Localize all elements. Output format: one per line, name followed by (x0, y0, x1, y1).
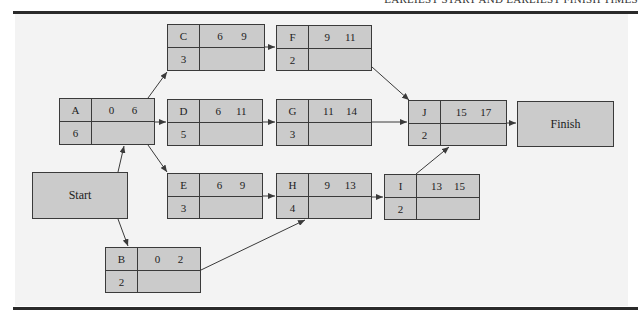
activity-name: E (168, 174, 200, 197)
activity-name: C (168, 25, 200, 48)
bottom-rule (13, 307, 638, 310)
edge-a-e (148, 145, 167, 172)
earliest-start: 9 (324, 179, 330, 191)
activity-name: I (385, 175, 417, 198)
finish-label: Finish (550, 117, 580, 132)
earliest-start: 9 (324, 31, 330, 43)
activity-duration: 2 (409, 124, 441, 145)
activity-node-h: H 4 913 (276, 173, 372, 219)
activity-duration: 3 (168, 197, 200, 218)
activity-times: 1517 (441, 101, 506, 124)
activity-times: 06 (92, 99, 154, 122)
activity-node-c: C 3 69 (167, 24, 265, 71)
activity-blank-cell (92, 122, 154, 144)
earliest-start: 13 (431, 180, 442, 192)
activity-name: A (60, 99, 92, 122)
earliest-finish: 9 (240, 179, 246, 191)
earliest-start: 6 (217, 179, 223, 191)
activity-name: J (409, 101, 441, 124)
start-label: Start (69, 188, 92, 203)
finish-node: Finish (517, 101, 614, 147)
earliest-finish: 9 (241, 30, 247, 42)
activity-node-d: D 5 611 (167, 99, 263, 146)
activity-node-i: I 2 1315 (384, 174, 480, 220)
activity-name: H (277, 174, 309, 197)
activity-blank-cell (138, 271, 200, 292)
activity-duration: 3 (277, 123, 309, 145)
activity-node-j: J 2 1517 (408, 100, 507, 146)
activity-blank-cell (309, 197, 371, 218)
activity-duration: 2 (106, 271, 138, 292)
activity-duration: 2 (385, 198, 417, 219)
activity-name: F (277, 26, 309, 49)
activity-times: 02 (138, 248, 200, 271)
activity-name: D (168, 100, 200, 123)
earliest-finish: 11 (236, 105, 247, 117)
edge-i-j (416, 147, 449, 174)
earliest-finish: 14 (346, 105, 357, 117)
activity-blank-cell (200, 197, 262, 218)
activity-times: 69 (200, 174, 262, 197)
activity-times: 69 (200, 25, 264, 48)
activity-name: B (106, 248, 138, 271)
activity-times: 1315 (417, 175, 479, 198)
activity-times: 911 (309, 26, 371, 49)
edge-start-a (118, 146, 124, 172)
earliest-start: 6 (217, 30, 223, 42)
activity-duration: 6 (60, 122, 92, 144)
edge-start-b (118, 219, 128, 246)
activity-blank-cell (441, 124, 506, 145)
earliest-start: 6 (215, 105, 221, 117)
activity-duration: 4 (277, 197, 309, 218)
activity-duration: 5 (168, 123, 200, 145)
earliest-start: 15 (456, 106, 467, 118)
activity-duration: 3 (168, 48, 200, 70)
activity-blank-cell (200, 123, 262, 145)
earliest-finish: 11 (345, 31, 356, 43)
earliest-start: 0 (155, 253, 161, 265)
activity-blank-cell (309, 49, 371, 70)
activity-duration: 2 (277, 49, 309, 70)
activity-blank-cell (200, 48, 264, 70)
edge-a-c (148, 72, 167, 98)
activity-times: 913 (309, 174, 371, 197)
earliest-finish: 15 (454, 180, 465, 192)
earliest-finish: 6 (132, 104, 138, 116)
start-node: Start (32, 172, 128, 219)
edge-b-h (201, 220, 305, 270)
activity-name: G (277, 100, 309, 123)
activity-node-g: G 3 1114 (276, 99, 372, 146)
activity-node-e: E 3 69 (167, 173, 263, 219)
activity-times: 611 (200, 100, 262, 123)
activity-blank-cell (309, 123, 371, 145)
activity-node-a: A 6 06 (59, 98, 155, 145)
earliest-finish: 13 (345, 179, 356, 191)
earliest-start: 11 (323, 105, 334, 117)
activity-node-b: B 2 02 (105, 247, 201, 293)
activity-node-f: F 2 911 (276, 25, 372, 71)
edge-f-j (372, 67, 409, 100)
earliest-finish: 2 (178, 253, 184, 265)
activity-blank-cell (417, 198, 479, 219)
activity-times: 1114 (309, 100, 371, 123)
earliest-start: 0 (109, 104, 115, 116)
earliest-finish: 17 (480, 106, 491, 118)
